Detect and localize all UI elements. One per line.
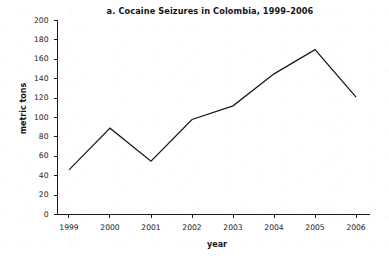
x-axis-ticks [69,215,356,219]
axes [58,20,371,215]
y-axis-ticks [54,21,58,215]
data-line-series [69,50,356,170]
chart-container: a. Cocaine Seizures in Colombia, 1999–20… [0,0,389,260]
plot-area [0,0,389,260]
